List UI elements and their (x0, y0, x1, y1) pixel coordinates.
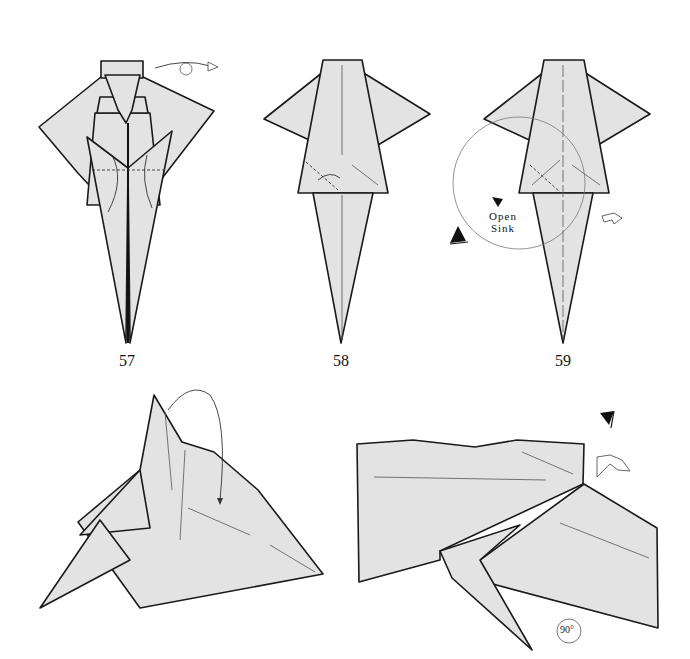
repeat-arrow-icon (602, 213, 622, 224)
origami-diagram (0, 0, 690, 659)
repeat-arrow-icon (597, 455, 630, 477)
step-number-59: 59 (543, 352, 583, 370)
open-sink-label: Open Sink (483, 210, 523, 234)
step-58-figure (264, 60, 430, 343)
turn-over-icon (180, 63, 192, 75)
eye-icon (600, 411, 614, 428)
eye-icon (450, 226, 468, 244)
step-number-58: 58 (321, 352, 361, 370)
step-57-figure (39, 61, 218, 343)
step-60-figure (40, 390, 323, 608)
sink-label: Sink (483, 222, 523, 234)
step-61-figure (357, 411, 658, 650)
step-59-figure (450, 60, 650, 343)
open-label: Open (483, 210, 523, 222)
step-number-57: 57 (107, 352, 147, 370)
push-arrow-icon (492, 197, 503, 207)
rotate-90-label: 90° (560, 624, 574, 635)
